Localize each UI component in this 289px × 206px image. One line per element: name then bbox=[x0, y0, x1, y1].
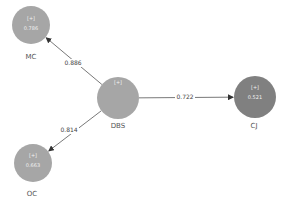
expand-icon[interactable]: [+] bbox=[114, 79, 122, 85]
expand-icon[interactable]: [+] bbox=[27, 15, 35, 21]
edge-label-dbs-mc: 0.886 bbox=[64, 59, 81, 66]
expand-icon[interactable]: [+] bbox=[29, 152, 37, 158]
edge-label-dbs-cj: 0.722 bbox=[176, 93, 193, 100]
path-diagram: 0.886 0.722 0.814 [+] 0.786 MC [+] DBS [… bbox=[0, 0, 289, 206]
edge-label-dbs-oc: 0.814 bbox=[60, 126, 77, 133]
node-mc[interactable]: [+] 0.786 MC bbox=[12, 6, 50, 61]
node-mc-value: 0.786 bbox=[24, 25, 38, 31]
node-mc-label: MC bbox=[26, 53, 37, 61]
node-dbs[interactable]: [+] DBS bbox=[97, 77, 139, 130]
node-dbs-label: DBS bbox=[111, 122, 126, 130]
node-oc-label: OC bbox=[27, 190, 38, 198]
node-cj-value: 0.521 bbox=[248, 94, 262, 100]
expand-icon[interactable]: [+] bbox=[251, 84, 259, 90]
node-cj-label: CJ bbox=[251, 122, 258, 130]
node-cj[interactable]: [+] 0.521 CJ bbox=[234, 76, 276, 130]
node-oc[interactable]: [+] 0.663 OC bbox=[14, 144, 52, 198]
node-oc-value: 0.663 bbox=[26, 162, 40, 168]
